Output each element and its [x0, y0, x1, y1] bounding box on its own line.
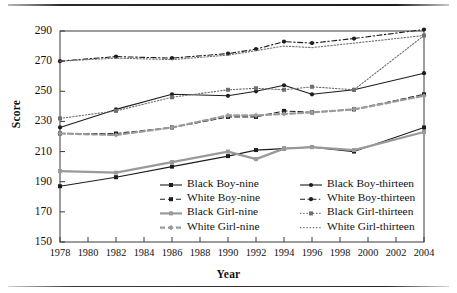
- legend-entry-white-girl-nine: White Girl-nine: [187, 220, 259, 232]
- y-tick-label: 170: [18, 205, 52, 217]
- y-tick-label: 150: [18, 235, 52, 247]
- y-tick-label: 270: [18, 54, 52, 66]
- legend-entry-white-boy-nine: White Boy-nine: [187, 191, 260, 203]
- legend-entry-black-girl-nine: Black Girl-nine: [187, 205, 258, 217]
- legend-entry-black-girl-thirteen: Black Girl-thirteen: [327, 205, 413, 217]
- legend-entry-black-boy-thirteen: Black Boy-thirteen: [327, 177, 414, 189]
- legend-entry-black-boy-nine: Black Boy-nine: [187, 177, 259, 189]
- y-tick-label: 210: [18, 145, 52, 157]
- y-tick-label: 230: [18, 114, 52, 126]
- y-tick-label: 290: [18, 24, 52, 36]
- x-tick-label: 2004: [404, 247, 444, 258]
- y-tick-label: 250: [18, 84, 52, 96]
- legend-entry-white-boy-thirteen: White Boy-thirteen: [327, 191, 415, 203]
- figure-panel: Score Year 150170190210230250270290 1978…: [0, 0, 457, 293]
- y-tick-label: 190: [18, 175, 52, 187]
- legend-entry-white-girl-thirteen: White Girl-thirteen: [327, 220, 415, 232]
- x-axis-title: Year: [0, 268, 457, 280]
